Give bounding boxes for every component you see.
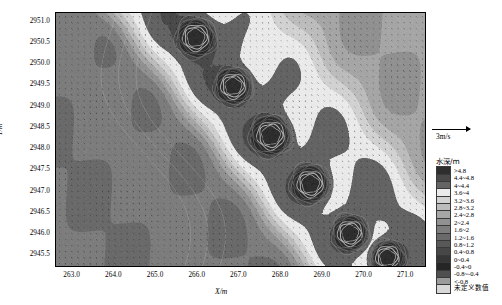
legend-entry-label: 1.2~1.6	[451, 234, 474, 241]
plot-area	[55, 12, 426, 267]
legend-entry-list: >4.84.4~4.84~4.43.6~43.2~3.62.8~3.22.4~2…	[436, 167, 498, 293]
legend-entry-label: 1.6~2	[451, 226, 469, 233]
velocity-arrow-head	[466, 126, 471, 132]
legend-entry-label: 3.2~3.6	[451, 197, 474, 204]
x-tick-label: 267.0	[216, 271, 260, 279]
legend-entry-label: 2.8~3.2	[451, 204, 474, 211]
y-tick-label: 2950.5	[4, 38, 50, 46]
legend-entry-label: 0.8~1.2	[451, 241, 474, 248]
legend-entry: 未定义数值	[436, 285, 498, 292]
x-tick-label: 271.0	[383, 271, 427, 279]
y-tick-label: 2950.0	[4, 59, 50, 67]
y-tick-label: 2951.0	[4, 17, 50, 25]
figure-root: 2951.02950.52950.02949.52949.02948.52948…	[0, 0, 502, 305]
legend-entry-label: 0.4~0.8	[451, 248, 474, 255]
y-tick-label: 2946.5	[4, 208, 50, 216]
y-tick-label: 2948.5	[4, 123, 50, 131]
legend-color-swatch	[436, 284, 451, 293]
y-axis-title: Y/m	[0, 124, 4, 136]
legend-entry-label: >4.8	[451, 167, 466, 174]
velocity-arrow-icon	[432, 125, 488, 133]
x-tick-label: 263.0	[50, 271, 94, 279]
y-tick-label: 2949.0	[4, 102, 50, 110]
depth-legend: 水深/m >4.84.4~4.84~4.43.6~43.2~3.62.8~3.2…	[436, 155, 498, 293]
legend-entry-label: -0.8~-0.4	[451, 270, 478, 277]
velocity-scale-label: 3m/s	[432, 132, 488, 141]
legend-entry-label: 3.6~4	[451, 189, 469, 196]
y-tick-label: 2948.0	[4, 144, 50, 152]
x-tick-label: 268.0	[258, 271, 302, 279]
x-tick-label: 265.0	[133, 271, 177, 279]
y-tick-label: 2945.5	[4, 250, 50, 258]
depth-contour-canvas	[56, 13, 425, 266]
velocity-arrow-line	[432, 129, 470, 130]
y-tick-label: 2949.5	[4, 80, 50, 88]
x-tick-label: 264.0	[91, 271, 135, 279]
legend-entry-label: 2~2.4	[451, 219, 469, 226]
legend-entry-label: 4.4~4.8	[451, 174, 474, 181]
legend-title: 水深/m	[436, 155, 498, 166]
x-tick-label: 269.0	[300, 271, 344, 279]
y-tick-label: 2947.0	[4, 187, 50, 195]
legend-entry-label: 未定义数值	[451, 285, 489, 292]
velocity-scale: 3m/s	[432, 125, 488, 141]
x-tick-label: 266.0	[175, 271, 219, 279]
x-tick-label: 270.0	[342, 271, 386, 279]
x-axis-title: X/m	[215, 287, 227, 296]
legend-entry-label: 0~0.4	[451, 256, 469, 263]
y-tick-label: 2947.5	[4, 165, 50, 173]
legend-entry-label: 4~4.4	[451, 182, 469, 189]
legend-entry-label: -0.4~0	[451, 263, 471, 270]
legend-entry-label: 2.4~2.8	[451, 211, 474, 218]
y-tick-label: 2946.0	[4, 229, 50, 237]
